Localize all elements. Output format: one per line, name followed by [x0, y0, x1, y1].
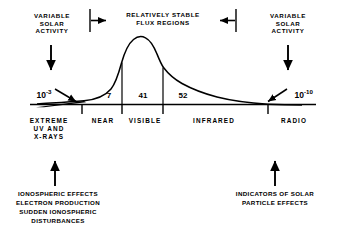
axis-label-near: NEAR [84, 117, 122, 125]
right-exponent-label: 10-10 [285, 80, 329, 111]
axis-label-infrared: INFRARED [178, 117, 250, 125]
axis-label-radio: RADIO [272, 117, 316, 125]
left-exponent-power: -3 [46, 89, 52, 96]
axis-label-extreme-uv-xrays: EXTREME UV AND X-RAYS [18, 117, 80, 140]
left-exponent-label: 10-3 [27, 80, 63, 111]
left-variable-solar-activity-label: VARIABLE SOLAR ACTIVITY [20, 12, 84, 35]
band-value-infrared: 52 [174, 91, 192, 101]
right-bottom-caption: INDICATORS OF SOLAR PARTICLE EFFECTS [216, 190, 334, 208]
left-bottom-caption: IONOSPHERIC EFFECTS ELECTRON PRODUCTION … [2, 190, 114, 226]
left-exponent-base: 10 [36, 90, 45, 100]
right-exponent-power: -10 [304, 89, 313, 96]
spectrum-figure: VARIABLE SOLAR ACTIVITY RELATIVELY STABL… [0, 0, 345, 234]
spectrum-curve [37, 37, 302, 105]
stable-flux-regions-label: RELATIVELY STABLE FLUX REGIONS [108, 11, 218, 26]
right-variable-solar-activity-label: VARIABLE SOLAR ACTIVITY [256, 12, 320, 35]
axis-ticks [82, 105, 268, 115]
band-value-near: 7 [101, 91, 117, 101]
axis-label-visible: VISIBLE [124, 117, 166, 125]
right-exponent-base: 10 [294, 90, 303, 100]
band-value-visible: 41 [134, 91, 152, 101]
